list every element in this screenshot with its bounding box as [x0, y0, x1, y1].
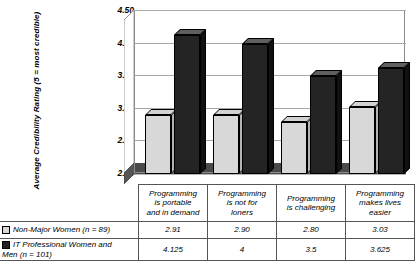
- table-value-s1-c2: 3.5: [277, 239, 346, 261]
- legend-corner-cell: [0, 185, 139, 222]
- table-value-s1-c1: 4: [208, 239, 277, 261]
- legend-label-0: Non-Major Women (n = 89): [13, 225, 110, 234]
- table-value-s1-c3: 3.625: [346, 239, 415, 261]
- bar-side-face: [404, 62, 410, 174]
- y-axis-title: Average Credibility Rating (5 = most cre…: [32, 1, 41, 201]
- bar-front-face: [145, 115, 171, 174]
- bar-1-series-1: [242, 44, 268, 174]
- bar-front-face: [281, 122, 307, 174]
- bar-3-series-0: [349, 107, 375, 174]
- bar-group-1: [202, 10, 270, 174]
- legend-entry-0: Non-Major Women (n = 89): [0, 222, 139, 239]
- bar-2-series-1: [310, 76, 336, 174]
- bar-3-series-1: [378, 68, 404, 174]
- table-category-3: Programmingmakes liveseasier: [346, 185, 415, 222]
- chart-left-wall: [124, 10, 134, 174]
- table-value-s0-c0: 2.91: [139, 222, 208, 239]
- bar-group-0: [134, 10, 202, 174]
- legend-label-1-line-0: IT Professional Women and: [13, 240, 112, 249]
- chart-figure: Average Credibility Rating (5 = most cre…: [0, 0, 417, 266]
- bar-1-series-0: [213, 115, 239, 174]
- bar-front-face: [349, 107, 375, 174]
- table-value-s0-c1: 2.90: [208, 222, 277, 239]
- bar-0-series-0: [145, 115, 171, 174]
- legend-swatch-0: [2, 226, 10, 234]
- table-row-series-1: IT Professional Women and Men (n = 101) …: [0, 239, 415, 261]
- table-value-s1-c0: 4.125: [139, 239, 208, 261]
- bar-front-face: [310, 76, 336, 174]
- legend-entry-1: IT Professional Women and Men (n = 101): [0, 239, 139, 261]
- bar-group-3: [338, 10, 406, 174]
- table-category-1: Programmingis not forloners: [208, 185, 277, 222]
- bar-front-face: [242, 44, 268, 174]
- legend-label-1-line-1: Men (n = 101): [2, 250, 136, 259]
- table-value-s0-c3: 3.03: [346, 222, 415, 239]
- bar-0-series-1: [174, 35, 200, 174]
- bar-front-face: [378, 68, 404, 174]
- bar-front-face: [213, 115, 239, 174]
- plot-area: [134, 10, 406, 174]
- bar-front-face: [174, 35, 200, 174]
- table-category-2: Programmingis challenging: [277, 185, 346, 222]
- table-row-categories: Programmingis portableand in demandProgr…: [0, 185, 415, 222]
- bar-2-series-0: [281, 122, 307, 174]
- legend-swatch-1: [2, 241, 10, 249]
- table-row-series-0: Non-Major Women (n = 89) 2.912.902.803.0…: [0, 222, 415, 239]
- table-category-0: Programmingis portableand in demand: [139, 185, 208, 222]
- table-value-s0-c2: 2.80: [277, 222, 346, 239]
- bar-group-2: [270, 10, 338, 174]
- data-table: Programmingis portableand in demandProgr…: [0, 184, 415, 261]
